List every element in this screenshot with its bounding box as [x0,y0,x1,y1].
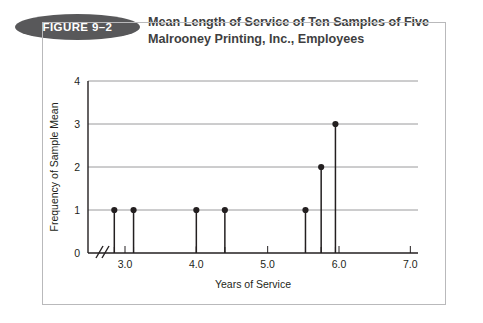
chart-frame-border [42,22,446,305]
